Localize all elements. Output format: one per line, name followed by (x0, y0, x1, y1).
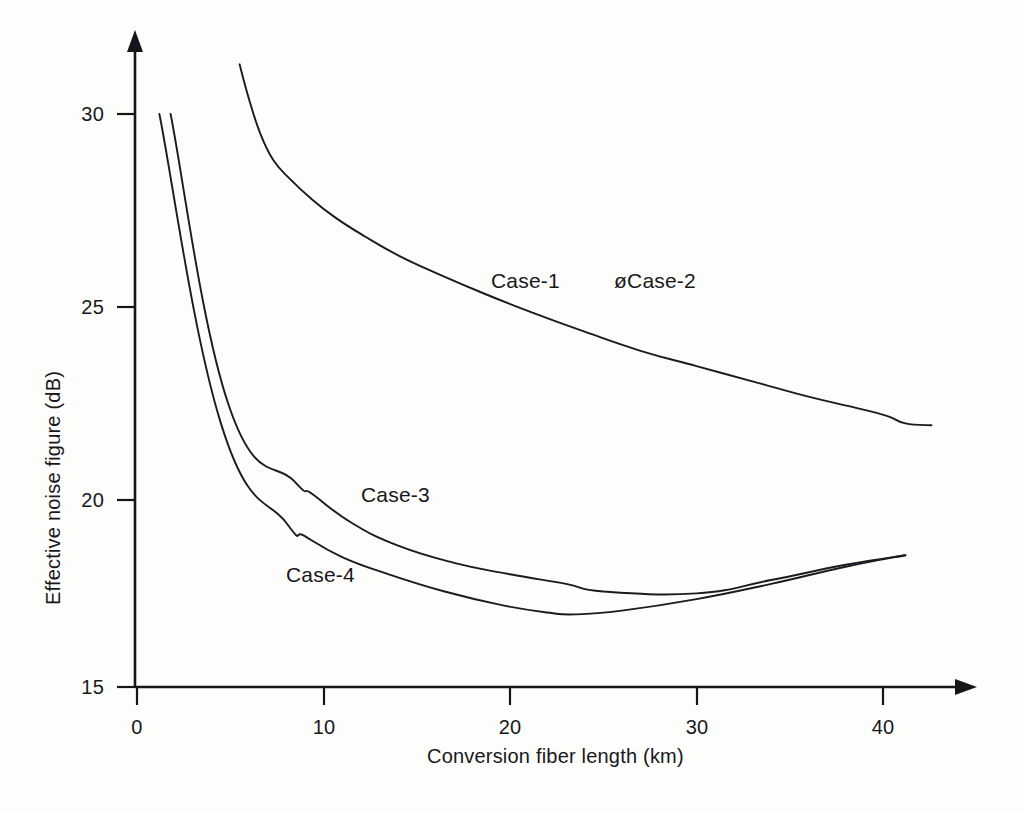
y-axis-title: Effective noise figure (dB) (42, 371, 65, 605)
x-tick-label-20: 20 (490, 716, 530, 739)
y-tick-label-30: 30 (58, 103, 104, 126)
y-axis-arrow-icon (127, 30, 143, 52)
series-label-case-2: øCase-2 (614, 269, 696, 293)
x-tick-label-30: 30 (677, 716, 717, 739)
series-line-case-4 (159, 114, 905, 615)
series-label-case-3: Case-3 (361, 483, 430, 507)
y-tick-label-25: 25 (58, 296, 104, 319)
x-axis-title: Conversion fiber length (km) (427, 745, 684, 768)
series-line-case-1 (240, 64, 932, 425)
figure-canvas: 15 20 25 30 0 10 20 30 40 Effective nois… (0, 0, 1024, 813)
series-label-case-4: Case-4 (286, 563, 355, 587)
chart-plot-area (0, 0, 1024, 813)
series-label-case-1: Case-1 (491, 269, 560, 293)
x-tick-label-10: 10 (304, 716, 344, 739)
y-tick-label-15: 15 (58, 676, 104, 699)
series-line-case-3 (171, 114, 906, 594)
x-tick-label-0: 0 (117, 716, 157, 739)
x-tick-label-40: 40 (863, 716, 903, 739)
x-axis-arrow-icon (955, 679, 977, 695)
